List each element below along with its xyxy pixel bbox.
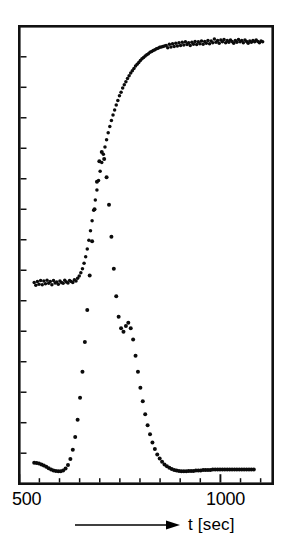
- data-point: [211, 41, 215, 45]
- data-point: [261, 40, 265, 44]
- data-point: [158, 457, 162, 461]
- data-point: [124, 324, 128, 328]
- data-point: [119, 326, 123, 330]
- right-arrow-icon: [74, 518, 182, 532]
- data-point: [80, 370, 84, 374]
- data-point: [103, 145, 107, 149]
- series-sigmoid-signal: [32, 37, 264, 287]
- data-point: [76, 418, 80, 422]
- data-point: [131, 338, 135, 342]
- data-point: [155, 452, 159, 456]
- data-point: [112, 267, 116, 271]
- data-point: [86, 247, 90, 251]
- data-point: [166, 46, 170, 50]
- x-axis-title: t [sec]: [188, 516, 235, 533]
- x-tick-label-500: 500: [12, 490, 41, 508]
- figure-container: 500 1000 t [sec]: [0, 0, 294, 545]
- data-point: [84, 255, 88, 259]
- data-point: [77, 274, 81, 278]
- data-point: [119, 90, 123, 94]
- data-point: [121, 330, 125, 334]
- data-point: [206, 39, 210, 43]
- data-point: [217, 41, 221, 45]
- data-point: [108, 125, 112, 129]
- data-point: [49, 280, 53, 284]
- data-point: [87, 239, 91, 243]
- data-point: [116, 99, 120, 103]
- series-derivative-peak-signal: [32, 150, 256, 473]
- data-point: [143, 412, 147, 416]
- data-point: [252, 468, 256, 472]
- data-point: [193, 40, 197, 44]
- data-point: [40, 283, 44, 287]
- data-point: [138, 386, 142, 390]
- data-point: [81, 267, 85, 271]
- data-point: [113, 108, 117, 112]
- data-point: [150, 441, 154, 445]
- y-axis-ticks: [21, 57, 27, 453]
- data-point: [44, 282, 48, 286]
- data-point: [126, 321, 130, 325]
- data-point: [78, 396, 82, 400]
- data-point: [169, 45, 173, 49]
- data-point: [148, 432, 152, 436]
- data-point: [73, 435, 77, 439]
- data-point: [129, 326, 133, 330]
- data-point: [172, 45, 176, 49]
- x-axis-ticks: [19, 474, 260, 482]
- data-point: [50, 283, 54, 287]
- data-point: [146, 423, 150, 427]
- data-point: [85, 308, 89, 312]
- data-point: [107, 203, 111, 207]
- data-point: [109, 235, 113, 239]
- x-axis-title-group: t [sec]: [74, 516, 235, 533]
- data-point: [93, 207, 97, 211]
- data-point: [94, 198, 98, 202]
- data-point: [34, 283, 38, 287]
- data-point: [64, 467, 68, 471]
- data-point: [182, 43, 186, 47]
- data-point: [61, 282, 65, 286]
- data-point: [57, 283, 61, 287]
- data-point: [39, 279, 43, 283]
- data-point: [222, 38, 226, 42]
- data-point: [106, 131, 110, 135]
- data-point: [71, 448, 75, 452]
- data-point: [83, 340, 87, 344]
- data-point: [124, 80, 128, 84]
- data-point: [88, 274, 92, 278]
- data-point: [66, 463, 70, 467]
- x-tick-label-1000: 1000: [206, 490, 245, 508]
- data-point: [111, 113, 115, 117]
- data-point: [114, 103, 118, 107]
- data-point: [37, 283, 41, 287]
- data-point: [95, 188, 99, 192]
- data-point: [45, 278, 49, 282]
- data-point: [200, 39, 204, 43]
- data-point: [95, 180, 99, 184]
- data-point: [98, 170, 102, 174]
- data-point: [153, 447, 157, 451]
- data-point: [179, 44, 183, 48]
- data-point: [121, 86, 125, 90]
- data-point: [100, 150, 104, 154]
- data-point: [134, 354, 138, 358]
- data-point: [105, 138, 109, 142]
- data-point: [123, 83, 127, 87]
- data-point: [176, 44, 180, 48]
- data-point: [79, 271, 83, 275]
- data-point: [105, 175, 109, 179]
- data-point: [102, 157, 106, 161]
- data-point: [136, 370, 140, 374]
- data-point: [188, 44, 192, 48]
- data-point: [117, 315, 121, 319]
- data-point: [141, 399, 145, 403]
- data-point: [90, 219, 94, 223]
- data-point: [213, 37, 217, 41]
- data-point: [97, 159, 101, 163]
- data-point: [118, 94, 122, 98]
- data-point: [90, 239, 94, 243]
- data-point: [114, 294, 118, 298]
- data-point: [82, 261, 86, 265]
- data-point: [110, 119, 114, 123]
